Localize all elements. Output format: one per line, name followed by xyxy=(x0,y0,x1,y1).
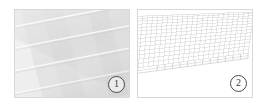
panel-index-badge-2: 2 xyxy=(230,75,247,92)
panel-photograph: 1 xyxy=(14,9,130,98)
panel-wireframe-mesh: 2 xyxy=(137,9,253,98)
figure-root: 1 2 xyxy=(0,0,265,104)
panel-index-badge-1: 1 xyxy=(108,76,125,93)
